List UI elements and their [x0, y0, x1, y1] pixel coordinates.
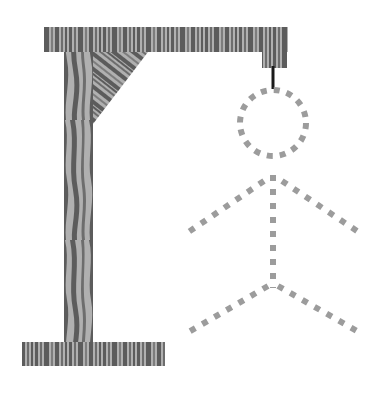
top-beam [44, 27, 288, 52]
canvas-background [0, 0, 384, 399]
vertical-post [64, 27, 93, 342]
hangman-illustration [0, 0, 384, 399]
hanger-tab [262, 52, 287, 68]
hangman-svg-canvas [0, 0, 384, 399]
base-beam [22, 342, 165, 366]
